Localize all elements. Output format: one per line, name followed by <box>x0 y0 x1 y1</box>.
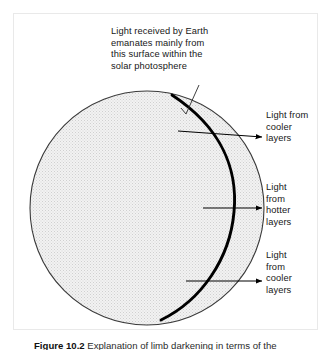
figure-caption-body: Explanation of limb darkening in terms o… <box>87 340 276 350</box>
figure-caption: Figure 10.2 Explanation of limb darkenin… <box>34 340 314 350</box>
figure-caption-label: Figure 10.2 <box>34 340 85 350</box>
annotation-photosphere-text: Light received by Earth emanates mainly … <box>111 26 251 72</box>
label-light-from-cooler-layers-lower: Light from cooler layers <box>266 250 328 296</box>
label-light-from-cooler-layers-upper: Light from cooler layers <box>266 110 328 145</box>
label-light-from-hotter-layers: Light from hotter layers <box>266 182 328 228</box>
figure-root: Light received by Earth emanates mainly … <box>0 0 334 350</box>
